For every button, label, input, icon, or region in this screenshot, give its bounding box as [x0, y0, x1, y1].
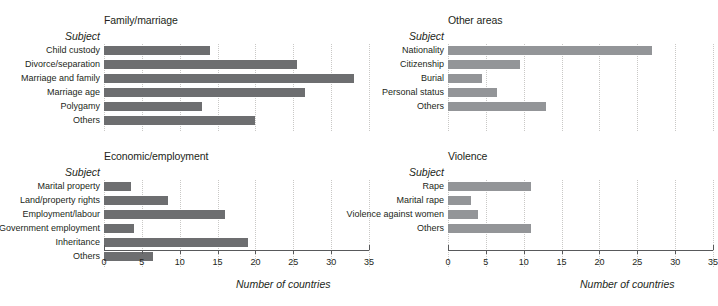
plot-area: Child custodyDivorce/separationMarriage …: [104, 44, 369, 131]
chart-title: Other areas: [448, 14, 502, 26]
category-label: Others: [417, 100, 444, 113]
bar: [104, 182, 131, 191]
bar: [104, 102, 202, 111]
bar-row: Marriage age: [104, 86, 369, 99]
x-axis-line: [104, 250, 369, 251]
x-tick: [713, 245, 714, 250]
bar-rows: RapeMarital rapeViolence against womenOt…: [448, 180, 713, 236]
bar: [104, 238, 248, 247]
axis-label-subject: Subject: [348, 30, 444, 42]
bar-row: Divorce/separation: [104, 58, 369, 71]
x-tick: [293, 250, 294, 254]
x-tick-label: 10: [519, 257, 529, 267]
category-label: Burial: [421, 72, 444, 85]
x-tick-label: 0: [101, 257, 106, 267]
bar: [104, 224, 134, 233]
x-tick-label: 10: [175, 257, 185, 267]
bar: [448, 182, 531, 191]
x-tick-label: 25: [288, 257, 298, 267]
chart-title: Violence: [448, 150, 487, 162]
gridline: [713, 180, 714, 267]
bar-row: Marriage and family: [104, 72, 369, 85]
bar: [448, 196, 471, 205]
bar-row: Others: [448, 222, 713, 235]
category-label: Citizenship: [400, 58, 444, 71]
bar-row: Marital rape: [448, 194, 713, 207]
bar: [448, 210, 478, 219]
bar: [448, 60, 520, 69]
bar-rows: Child custodyDivorce/separationMarriage …: [104, 44, 369, 128]
bar-row: Burial: [448, 72, 713, 85]
chart-panel-family-marriage: Family/marriage Subject Child custodyDiv…: [0, 4, 380, 134]
bar-row: Child custody: [104, 44, 369, 57]
x-tick: [637, 250, 638, 254]
category-label: Others: [417, 222, 444, 235]
x-tick-label: 5: [483, 257, 488, 267]
x-tick: [524, 250, 525, 254]
plot-area: NationalityCitizenshipBurialPersonal sta…: [448, 44, 713, 131]
category-label: Divorce/separation: [25, 58, 100, 71]
bar: [448, 46, 652, 55]
x-axis-line: [448, 250, 713, 251]
bar: [104, 116, 255, 125]
category-label: Marital rape: [396, 194, 444, 207]
bar-row: Rape: [448, 180, 713, 193]
plot-area: RapeMarital rapeViolence against womenOt…: [448, 180, 713, 267]
bar: [104, 196, 168, 205]
bar-row: Citizenship: [448, 58, 713, 71]
x-tick: [142, 250, 143, 254]
bar-row: Nationality: [448, 44, 713, 57]
x-axis-title: Number of countries: [580, 278, 675, 290]
x-tick: [180, 250, 181, 254]
chart-title: Family/marriage: [104, 14, 178, 26]
bar-row: Others: [448, 100, 713, 113]
bar: [448, 74, 482, 83]
bar-row: Government employment: [104, 222, 369, 235]
bar: [104, 88, 305, 97]
bar: [448, 88, 497, 97]
x-tick: [486, 250, 487, 254]
category-label: Marriage and family: [21, 72, 100, 85]
bar-row: Polygamy: [104, 100, 369, 113]
x-tick: [599, 250, 600, 254]
bar-row: Land/property rights: [104, 194, 369, 207]
x-tick-label: 5: [139, 257, 144, 267]
x-tick-label: 30: [326, 257, 336, 267]
x-tick-label: 15: [213, 257, 223, 267]
x-tick: [255, 250, 256, 254]
category-label: Personal status: [382, 86, 444, 99]
bar-row: Violence against women: [448, 208, 713, 221]
bar: [104, 60, 297, 69]
x-tick: [104, 245, 105, 250]
bar-rows: NationalityCitizenshipBurialPersonal sta…: [448, 44, 713, 114]
category-label: Land/property rights: [20, 194, 100, 207]
category-label: Marriage age: [47, 86, 100, 99]
category-label: Inheritance: [55, 236, 100, 249]
category-label: Violence against women: [347, 208, 444, 221]
chart-panel-economic-employment: Economic/employment Subject Marital prop…: [0, 140, 380, 306]
x-tick: [448, 245, 449, 250]
bar: [448, 224, 531, 233]
axis-label-subject: Subject: [8, 166, 100, 178]
category-label: Nationality: [402, 44, 444, 57]
category-label: Marital property: [37, 180, 100, 193]
plot-area: Marital propertyLand/property rightsEmpl…: [104, 180, 369, 267]
category-label: Government employment: [0, 222, 100, 235]
bar-row: Marital property: [104, 180, 369, 193]
chart-panel-violence: Violence Subject RapeMarital rapeViolenc…: [344, 140, 715, 306]
x-tick-label: 20: [594, 257, 604, 267]
category-label: Employment/labour: [22, 208, 100, 221]
bar: [448, 102, 546, 111]
gridline: [713, 44, 714, 131]
chart-title: Economic/employment: [104, 150, 208, 162]
category-label: Rape: [422, 180, 444, 193]
bar-row: Inheritance: [104, 236, 369, 249]
bar: [104, 74, 354, 83]
bar-row: Others: [104, 114, 369, 127]
category-label: Others: [73, 114, 100, 127]
bar-rows: Marital propertyLand/property rightsEmpl…: [104, 180, 369, 264]
bar: [104, 46, 210, 55]
x-tick: [562, 250, 563, 254]
x-tick: [331, 250, 332, 254]
bar-row: Personal status: [448, 86, 713, 99]
